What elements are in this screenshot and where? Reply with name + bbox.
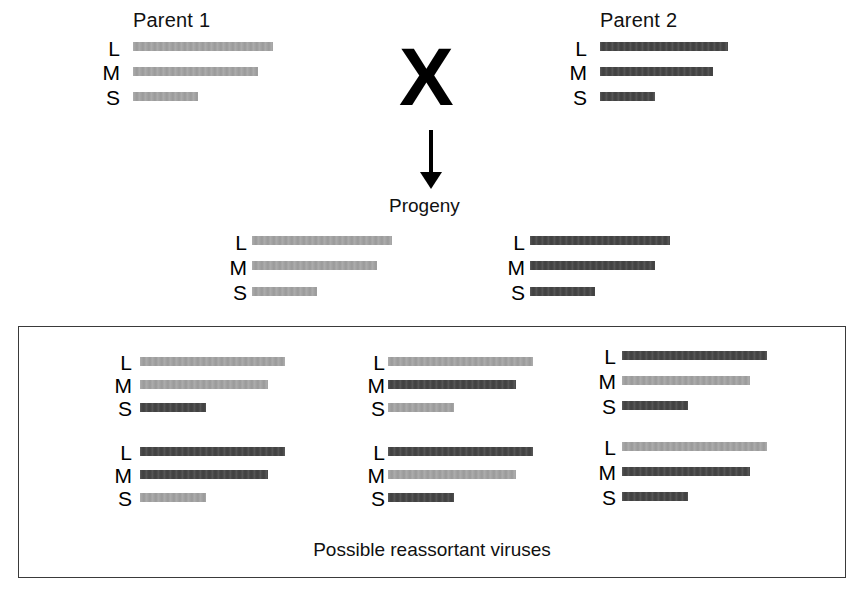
reassortant1-segment-bar-M	[140, 380, 268, 389]
progeny1-segment-label-L: L	[225, 232, 247, 253]
reassortant2-segment-label-L: L	[363, 352, 385, 373]
parent2-segment-bar-S	[600, 92, 655, 101]
reassortant6-segment-label-L: L	[594, 437, 616, 458]
reassortant3-segment-label-L: L	[594, 346, 616, 367]
progeny2-segment-bar-S	[530, 287, 595, 296]
reassortant3-segment-label-S: S	[594, 396, 616, 417]
progeny1-segment-bar-S	[252, 287, 317, 296]
progeny1-segment-bar-L	[252, 236, 392, 245]
reassortant4-segment-bar-L	[140, 447, 285, 456]
reassortant5-segment-bar-L	[388, 447, 533, 456]
reassortant5-segment-bar-S	[388, 493, 454, 502]
reassortant2-segment-bar-L	[388, 357, 533, 366]
reassortant4-segment-bar-M	[140, 470, 268, 479]
reassortant2-segment-label-S: S	[363, 398, 385, 419]
parent1-segment-bar-L	[133, 42, 273, 51]
reassortant3-segment-label-M: M	[592, 371, 616, 392]
parent2-segment-bar-M	[600, 67, 713, 76]
reassortant4-segment-label-M: M	[108, 465, 132, 486]
parent1-title: Parent 1	[133, 10, 210, 30]
reassortant3-segment-bar-L	[622, 351, 767, 360]
reassortant4-segment-label-L: L	[110, 442, 132, 463]
progeny2-segment-bar-M	[530, 261, 655, 270]
parent2-title: Parent 2	[600, 10, 677, 30]
reassortant1-segment-bar-S	[140, 403, 206, 412]
parent2-segment-label-L: L	[565, 38, 587, 59]
progeny2-segment-label-S: S	[503, 282, 525, 303]
parent1-segment-label-L: L	[98, 38, 120, 59]
reassortant6-segment-bar-L	[622, 442, 767, 451]
reassortant1-segment-label-S: S	[110, 398, 132, 419]
parent2-segment-label-S: S	[565, 87, 587, 108]
reassortant4-segment-label-S: S	[110, 488, 132, 509]
reassortant6-segment-label-S: S	[594, 487, 616, 508]
arrow-shaft	[429, 130, 433, 174]
reassortant-caption: Possible reassortant viruses	[18, 540, 846, 559]
parent2-segment-bar-L	[600, 42, 728, 51]
parent1-segment-label-S: S	[98, 87, 120, 108]
reassortant6-segment-label-M: M	[592, 462, 616, 483]
reassortant1-segment-label-L: L	[110, 352, 132, 373]
arrow-head-icon	[420, 172, 442, 189]
reassortant1-segment-label-M: M	[108, 375, 132, 396]
parent1-segment-label-M: M	[96, 62, 120, 83]
progeny2-segment-bar-L	[530, 236, 670, 245]
parent1-segment-bar-M	[133, 67, 258, 76]
reassortant5-segment-label-M: M	[361, 465, 385, 486]
figure-canvas: Parent 1 L M S Parent 2 L M S X Progeny …	[0, 0, 863, 591]
parent2-segment-label-M: M	[563, 62, 587, 83]
progeny1-segment-bar-M	[252, 261, 377, 270]
progeny2-segment-label-L: L	[503, 232, 525, 253]
reassortant2-segment-label-M: M	[361, 375, 385, 396]
reassortant1-segment-bar-L	[140, 357, 285, 366]
reassortant2-segment-bar-S	[388, 403, 454, 412]
reassortant5-segment-label-L: L	[363, 442, 385, 463]
progeny1-segment-label-M: M	[223, 257, 247, 278]
progeny1-segment-label-S: S	[225, 282, 247, 303]
reassortant6-segment-bar-S	[622, 492, 688, 501]
reassortant3-segment-bar-S	[622, 401, 688, 410]
parent1-segment-bar-S	[133, 92, 198, 101]
reassortant4-segment-bar-S	[140, 493, 206, 502]
reassortant5-segment-bar-M	[388, 470, 516, 479]
progeny-label: Progeny	[389, 196, 460, 215]
reassortant6-segment-bar-M	[622, 467, 750, 476]
progeny2-segment-label-M: M	[501, 257, 525, 278]
reassortant2-segment-bar-M	[388, 380, 516, 389]
cross-symbol: X	[399, 36, 454, 118]
reassortant5-segment-label-S: S	[363, 488, 385, 509]
reassortant3-segment-bar-M	[622, 376, 750, 385]
